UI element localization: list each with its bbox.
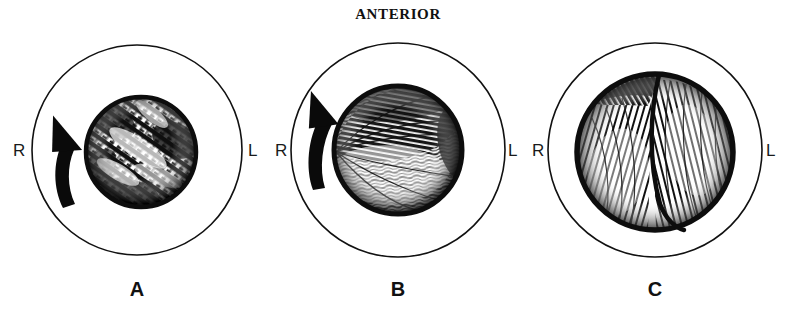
panel-b-right-side-label: R [275, 141, 287, 160]
panel-c-right-side-label: R [532, 141, 544, 160]
panel-b-left-side-label: L [508, 141, 517, 160]
panel-c-ball [577, 74, 733, 230]
panel-c-label: C [648, 278, 662, 300]
panel-a-left-side-label: L [248, 141, 257, 160]
panel-a-right-side-label: R [13, 141, 25, 160]
panel-b-ball [334, 81, 468, 214]
anterior-rotation-figure: ANTERIOR [0, 0, 792, 315]
figure-title: ANTERIOR [355, 6, 441, 22]
panel-b: R L B [275, 43, 517, 300]
panel-b-label: B [391, 278, 405, 300]
panel-a-rotation-arrow [47, 112, 82, 208]
figure-container: ANTERIOR [0, 0, 792, 315]
panel-a: R L A [13, 45, 257, 300]
panel-c: R L C [532, 43, 775, 300]
panel-a-label: A [130, 278, 144, 300]
panel-c-left-side-label: L [766, 141, 775, 160]
panel-a-ball [74, 94, 204, 212]
